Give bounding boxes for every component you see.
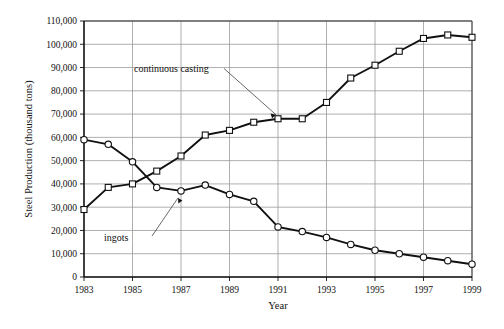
y-axis-tick-label: 20,000 [51, 226, 77, 236]
data-point-marker-square [275, 116, 281, 122]
y-axis-tick-label: 100,000 [46, 40, 77, 50]
x-axis-tick-label: 1989 [220, 285, 239, 295]
data-point-marker-square [130, 181, 136, 187]
data-point-marker-square [154, 168, 160, 174]
x-axis-tick-label: 1983 [75, 285, 94, 295]
data-point-marker-circle [348, 241, 354, 247]
data-point-marker-square [202, 132, 208, 138]
y-axis-tick-label: 110,000 [46, 16, 77, 26]
data-point-marker-circle [202, 182, 208, 188]
x-axis-tick-label: 1997 [414, 285, 433, 295]
data-point-marker-square [396, 48, 402, 54]
y-axis-tick-label: 60,000 [51, 133, 77, 143]
chart-container: 010,00020,00030,00040,00050,00060,00070,… [0, 0, 504, 329]
data-point-marker-square [469, 34, 475, 40]
data-point-marker-circle [226, 191, 232, 197]
y-axis-tick-label: 70,000 [51, 109, 77, 119]
annotation-label-ingots: ingots [104, 232, 129, 243]
data-point-marker-square [372, 62, 378, 68]
x-axis-tick-label: 1999 [463, 285, 482, 295]
x-axis-tick-label: 1987 [172, 285, 191, 295]
annotation-arrowhead-ingots [178, 198, 182, 204]
data-point-marker-circle [445, 258, 451, 264]
y-axis-tick-label: 0 [72, 272, 77, 282]
data-point-marker-square [105, 184, 111, 190]
data-point-marker-circle [469, 261, 475, 267]
y-axis-tick-label: 30,000 [51, 203, 77, 213]
data-point-marker-circle [396, 251, 402, 257]
data-point-marker-square [421, 35, 427, 41]
y-axis-tick-label: 50,000 [51, 156, 77, 166]
y-axis-title: Steel Production (thousand tons) [23, 80, 35, 218]
data-point-marker-circle [275, 224, 281, 230]
data-point-marker-circle [129, 159, 135, 165]
data-point-marker-square [227, 127, 233, 133]
x-axis-tick-label: 1991 [269, 285, 288, 295]
data-point-marker-circle [299, 228, 305, 234]
data-point-marker-circle [178, 188, 184, 194]
data-point-marker-circle [154, 184, 160, 190]
data-point-marker-square [251, 119, 257, 125]
data-point-marker-square [178, 153, 184, 159]
y-axis-tick-label: 10,000 [51, 249, 77, 259]
y-axis-tick-label: 80,000 [51, 86, 77, 96]
annotation-label-continuous-casting: continuous casting [134, 63, 209, 74]
data-point-marker-circle [105, 141, 111, 147]
x-axis-tick-label: 1995 [366, 285, 385, 295]
data-point-marker-square [81, 207, 87, 213]
data-point-marker-square [324, 99, 330, 105]
data-point-marker-circle [372, 247, 378, 253]
data-point-marker-square [445, 32, 451, 38]
data-point-marker-circle [420, 254, 426, 260]
steel-production-line-chart: 010,00020,00030,00040,00050,00060,00070,… [0, 0, 504, 329]
x-axis-tick-label: 1985 [123, 285, 142, 295]
data-point-marker-circle [323, 234, 329, 240]
x-axis-title: Year [268, 300, 288, 311]
data-point-marker-circle [81, 136, 87, 142]
data-point-marker-square [348, 75, 354, 81]
x-axis-tick-label: 1993 [317, 285, 336, 295]
y-axis-tick-label: 40,000 [51, 179, 77, 189]
data-point-marker-circle [251, 198, 257, 204]
y-axis-tick-label: 90,000 [51, 63, 77, 73]
data-point-marker-square [299, 116, 305, 122]
annotation-leader-line-continuous-casting [224, 69, 276, 115]
